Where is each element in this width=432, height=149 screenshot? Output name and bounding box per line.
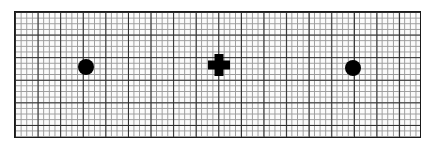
- figure-canvas: [0, 0, 432, 149]
- cross-vertical-bar: [215, 54, 224, 76]
- graph-paper-grid: [14, 11, 421, 138]
- marker-right-dot: [345, 60, 361, 76]
- marker-left-dot: [78, 59, 94, 75]
- marker-center-cross: [208, 54, 230, 76]
